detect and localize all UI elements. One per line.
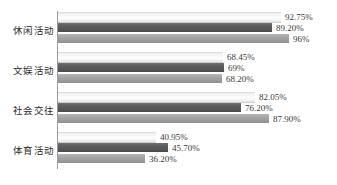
bar-cluster: 体育活动 40.95% 45.70% 36.20%	[58, 131, 337, 171]
bar-series-2[interactable]	[58, 103, 241, 112]
bar-value-label: 89.20%	[276, 23, 304, 32]
bar-value-label: 69%	[228, 63, 245, 72]
bar-row: 36.20%	[58, 153, 337, 164]
bar-value-label: 40.95%	[160, 132, 188, 141]
bar-series-3[interactable]	[58, 114, 269, 123]
bar-value-label: 45.70%	[172, 143, 200, 152]
bar-value-label: 96%	[293, 34, 310, 43]
bar-cluster: 社会交往 82.05% 76.20% 87.90%	[58, 91, 337, 131]
bar-row: 87.90%	[58, 113, 337, 124]
bar-value-label: 68.20%	[226, 74, 254, 83]
bar-row: 45.70%	[58, 142, 337, 153]
bar-row: 76.20%	[58, 102, 337, 113]
bar-row: 89.20%	[58, 22, 337, 33]
bar-value-label: 87.90%	[273, 114, 301, 123]
bar-row: 96%	[58, 33, 337, 44]
bar-row: 69%	[58, 62, 337, 73]
bar-cluster: 文娱活动 68.45% 69% 68.20%	[58, 51, 337, 91]
bar-series-2[interactable]	[58, 63, 224, 72]
category-label: 文娱活动	[13, 66, 54, 76]
bar-series-3[interactable]	[58, 154, 145, 163]
bar-series-3[interactable]	[58, 34, 289, 43]
category-label: 体育活动	[13, 146, 54, 156]
bar-value-label: 82.05%	[259, 92, 287, 101]
plot-area: 休闲活动 92.75% 89.20% 96% 文娱活动 68.45%	[58, 11, 337, 171]
bar-row: 68.45%	[58, 51, 337, 62]
bar-row: 82.05%	[58, 91, 337, 102]
bar-row: 40.95%	[58, 131, 337, 142]
bar-series-2[interactable]	[58, 23, 272, 32]
bar-value-label: 92.75%	[285, 12, 313, 21]
bar-series-2[interactable]	[58, 143, 168, 152]
bar-value-label: 68.45%	[227, 52, 255, 61]
category-label: 休闲活动	[13, 26, 54, 36]
horizontal-bar-chart: 休闲活动 92.75% 89.20% 96% 文娱活动 68.45%	[0, 0, 337, 185]
bar-cluster: 休闲活动 92.75% 89.20% 96%	[58, 11, 337, 51]
category-label: 社会交往	[13, 106, 54, 116]
bar-row: 68.20%	[58, 73, 337, 84]
bar-value-label: 76.20%	[245, 103, 273, 112]
bar-series-3[interactable]	[58, 74, 222, 83]
bar-row: 92.75%	[58, 11, 337, 22]
bar-value-label: 36.20%	[149, 154, 177, 163]
